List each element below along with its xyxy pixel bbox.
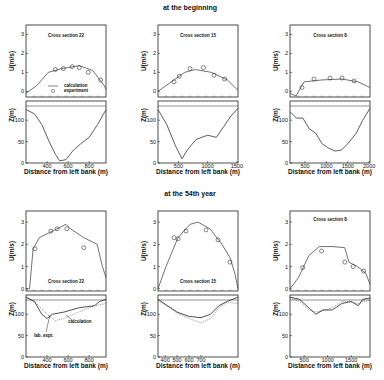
x-axis-label: Distance from left bank (m) xyxy=(156,168,240,176)
row-title-54th-year: at the 54th year xyxy=(164,190,216,198)
svg-text:Z(m): Z(m) xyxy=(272,108,280,122)
svg-text:2: 2 xyxy=(21,50,24,56)
svg-text:2: 2 xyxy=(285,241,288,247)
cross-section-title: Cross section 8 xyxy=(313,33,347,38)
svg-text:0: 0 xyxy=(21,286,24,292)
svg-text:U(m/s): U(m/s) xyxy=(272,51,280,71)
svg-text:1: 1 xyxy=(153,264,156,270)
svg-text:3: 3 xyxy=(285,31,288,37)
chart-panel: 0123U(m/s)Cross section 2205010040060080… xyxy=(8,211,108,370)
x-axis-label: Distance from left bank (m) xyxy=(156,362,240,370)
svg-text:Z(m): Z(m) xyxy=(140,302,148,316)
svg-text:50: 50 xyxy=(18,139,24,145)
svg-text:0: 0 xyxy=(285,160,288,166)
svg-text:50: 50 xyxy=(282,139,288,145)
svg-text:0: 0 xyxy=(21,160,24,166)
svg-text:Z(m): Z(m) xyxy=(140,108,148,122)
svg-text:U(m/s): U(m/s) xyxy=(272,241,280,261)
svg-text:0: 0 xyxy=(21,88,24,94)
cross-section-title: Cross section 8 xyxy=(313,217,347,222)
svg-text:0: 0 xyxy=(285,286,288,292)
svg-text:1: 1 xyxy=(21,264,24,270)
chart-panel: 0123U(m/s)Cross section 1505010050010001… xyxy=(140,25,243,176)
svg-text:50: 50 xyxy=(150,333,156,339)
svg-text:3: 3 xyxy=(153,31,156,37)
svg-text:3: 3 xyxy=(21,219,24,225)
legend-experiment: experiment xyxy=(64,88,89,93)
cross-section-title: Cross section 22 xyxy=(48,33,85,38)
x-axis-label: Distance from left bank (m) xyxy=(24,362,108,370)
svg-text:100: 100 xyxy=(15,117,24,123)
svg-text:3: 3 xyxy=(153,219,156,225)
svg-text:50: 50 xyxy=(18,333,24,339)
x-axis-label: Distance from left bank (m) xyxy=(288,362,372,370)
svg-text:100: 100 xyxy=(147,311,156,317)
x-axis-label: Distance from left bank (m) xyxy=(24,168,108,176)
svg-text:100: 100 xyxy=(147,117,156,123)
svg-text:2: 2 xyxy=(21,241,24,247)
svg-text:0: 0 xyxy=(153,160,156,166)
svg-text:1: 1 xyxy=(153,69,156,75)
svg-text:Z(m): Z(m) xyxy=(272,302,280,316)
svg-text:0: 0 xyxy=(21,354,24,360)
svg-text:1: 1 xyxy=(285,264,288,270)
svg-text:0: 0 xyxy=(153,286,156,292)
cross-section-title: Cross section 15 xyxy=(180,33,217,38)
svg-text:Z(m): Z(m) xyxy=(8,108,16,122)
row-title-beginning: at the beginning xyxy=(163,4,217,12)
svg-text:U(m/s): U(m/s) xyxy=(140,51,148,71)
svg-text:0: 0 xyxy=(285,354,288,360)
figure: at the beginning at the 54th year 0123U(… xyxy=(0,0,384,380)
svg-text:0: 0 xyxy=(153,88,156,94)
cross-section-title: Cross section 22 xyxy=(48,279,85,284)
svg-text:2: 2 xyxy=(285,50,288,56)
svg-text:50: 50 xyxy=(282,333,288,339)
svg-text:3: 3 xyxy=(285,219,288,225)
svg-text:U(m/s): U(m/s) xyxy=(8,241,16,261)
svg-text:U(m/s): U(m/s) xyxy=(8,51,16,71)
svg-text:Z(m): Z(m) xyxy=(8,302,16,316)
annotation-lab-expt: lab. expt. xyxy=(34,333,54,338)
svg-text:0: 0 xyxy=(285,88,288,94)
x-axis-label: Distance from left bank (m) xyxy=(288,168,372,176)
cross-section-title: Cross section 15 xyxy=(180,279,217,284)
svg-text:100: 100 xyxy=(15,311,24,317)
svg-text:2: 2 xyxy=(153,50,156,56)
svg-text:50: 50 xyxy=(150,139,156,145)
svg-text:U(m/s): U(m/s) xyxy=(140,241,148,261)
chart-panel: 0123U(m/s)Cross section 8050100500100015… xyxy=(272,25,375,176)
svg-text:1: 1 xyxy=(21,69,24,75)
chart-panel: 0123U(m/s)Cross section 22calculationexp… xyxy=(8,25,108,176)
chart-panel: 0123U(m/s)Cross section 1505010040050060… xyxy=(140,211,240,370)
svg-text:0: 0 xyxy=(153,354,156,360)
svg-text:3: 3 xyxy=(21,31,24,37)
svg-text:2: 2 xyxy=(153,241,156,247)
chart-panel: 0123U(m/s)Cross section 8050100500100015… xyxy=(272,211,372,370)
svg-text:100: 100 xyxy=(279,117,288,123)
svg-text:1: 1 xyxy=(285,69,288,75)
svg-text:100: 100 xyxy=(279,311,288,317)
